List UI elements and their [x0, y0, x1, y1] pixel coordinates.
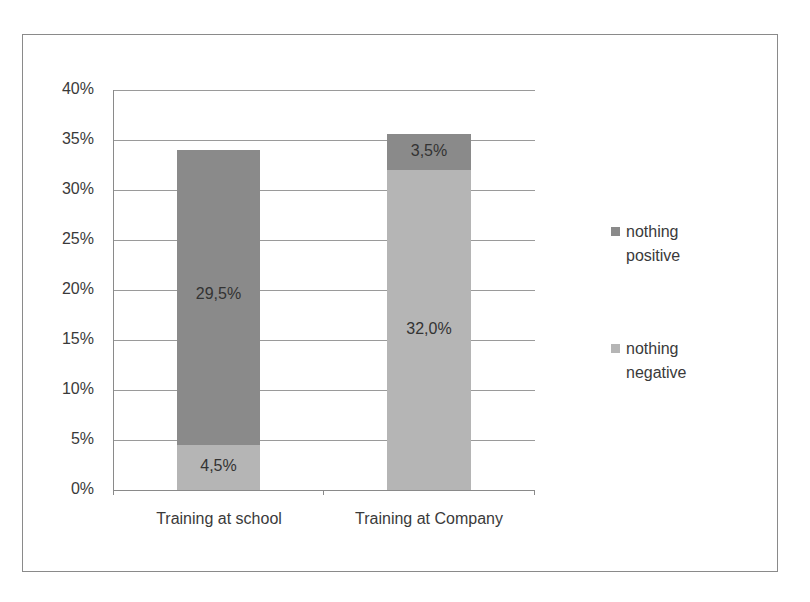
bar-school-nothing-negative: 4,5% — [177, 445, 260, 490]
x-axis — [113, 490, 535, 491]
data-label: 29,5% — [177, 285, 260, 303]
y-tick-label: 20% — [40, 280, 94, 298]
gridline-35 — [113, 140, 535, 141]
bar-company-nothing-negative: 32,0% — [387, 170, 471, 490]
x-category-label: Training at school — [114, 510, 324, 528]
y-tick-label: 5% — [40, 430, 94, 448]
y-tick-label: 30% — [40, 180, 94, 198]
legend-label: nothing — [626, 223, 679, 240]
data-label: 32,0% — [387, 320, 471, 338]
y-tick-label: 25% — [40, 230, 94, 248]
y-tick-label: 15% — [40, 330, 94, 348]
legend-swatch-negative — [611, 344, 620, 353]
y-tick-label: 10% — [40, 380, 94, 398]
legend-label: nothing — [626, 340, 679, 357]
legend-label: negative — [611, 361, 731, 385]
legend-item-nothing-negative: nothing negative — [611, 337, 731, 385]
x-tick-mark — [323, 490, 324, 495]
x-tick-mark — [534, 490, 535, 495]
legend-item-nothing-positive: nothing positive — [611, 220, 731, 268]
bar-company-nothing-positive: 3,5% — [387, 134, 471, 170]
x-category-label: Training at Company — [324, 510, 534, 528]
legend-label: positive — [611, 244, 731, 268]
bar-school-nothing-positive: 29,5% — [177, 150, 260, 445]
x-tick-mark — [113, 490, 114, 495]
y-tick-label: 0% — [40, 480, 94, 498]
gridline-40 — [113, 90, 535, 91]
y-axis — [113, 90, 114, 493]
y-tick-label: 35% — [40, 130, 94, 148]
y-tick-label: 40% — [40, 80, 94, 98]
data-label: 4,5% — [177, 457, 260, 475]
legend-swatch-positive — [611, 227, 620, 236]
data-label: 3,5% — [387, 142, 471, 160]
